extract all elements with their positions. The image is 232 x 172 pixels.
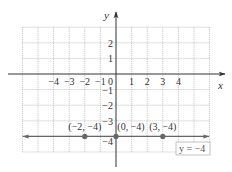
equation-annotation: y = −4 bbox=[176, 142, 210, 155]
y-axis-label: y bbox=[103, 9, 109, 21]
x-axis-label: x bbox=[217, 79, 223, 91]
x-tick-label: 1 bbox=[129, 76, 134, 87]
data-point bbox=[113, 134, 118, 139]
y-tick-label: −4 bbox=[102, 136, 113, 147]
coordinate-plane: −4−3−2−1123421−1−2−3−4 (−2, −4)(0, −4)(3… bbox=[0, 0, 232, 172]
x-tick-label: −4 bbox=[48, 76, 59, 87]
y-tick-label: 2 bbox=[108, 38, 113, 49]
origin-label: 0 bbox=[108, 76, 113, 87]
y-tick-label: 1 bbox=[108, 53, 113, 64]
equation-label: y = −4 bbox=[179, 143, 205, 154]
x-tick-label: −2 bbox=[79, 76, 90, 87]
x-tick-label: 2 bbox=[145, 76, 150, 87]
point-label: (3, −4) bbox=[149, 121, 176, 133]
data-point bbox=[160, 134, 165, 139]
x-tick-label: −3 bbox=[64, 76, 75, 87]
data-point bbox=[82, 134, 87, 139]
y-tick-label: −2 bbox=[102, 100, 113, 111]
y-tick-label: −3 bbox=[102, 116, 113, 127]
x-tick-label: 4 bbox=[176, 76, 181, 87]
point-label: (0, −4) bbox=[117, 121, 144, 133]
point-label: (−2, −4) bbox=[68, 121, 101, 133]
x-tick-label: 3 bbox=[160, 76, 165, 87]
